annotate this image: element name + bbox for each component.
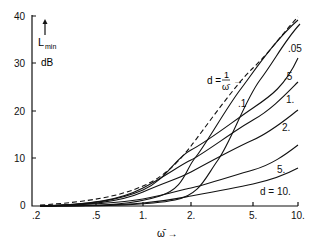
y-axis-label: L min dB bbox=[38, 19, 56, 68]
label-d-2: 2. bbox=[282, 122, 290, 133]
asym-arrow: → bbox=[233, 75, 243, 86]
asym-d: d = bbox=[207, 75, 221, 86]
label-d-1: 1. bbox=[286, 94, 294, 105]
y-label-main: L bbox=[38, 36, 44, 48]
label-d-10: d = 10. bbox=[260, 186, 291, 197]
label-d-0.1: .1 bbox=[238, 98, 247, 109]
y-tick-40: 40 bbox=[14, 11, 26, 22]
y-label-unit: dB bbox=[41, 57, 54, 68]
asym-den: ω̄ bbox=[222, 82, 231, 92]
label-d-0.5: .5 bbox=[284, 71, 293, 82]
x-tick-0.5: .5 bbox=[92, 210, 101, 221]
curves bbox=[40, 17, 300, 206]
asymptote-label: d = 1 ω̄ → bbox=[207, 70, 243, 92]
axis-lines bbox=[32, 15, 298, 206]
x-tick-0.2: .2 bbox=[32, 210, 41, 221]
x-tick-1: 1. bbox=[139, 210, 147, 221]
label-d-0.05: .05 bbox=[288, 43, 302, 54]
y-tick-0: 0 bbox=[20, 200, 26, 211]
asym-num: 1 bbox=[224, 70, 229, 80]
x-tick-2: 2. bbox=[187, 210, 195, 221]
x-axis-label: ω̄ → bbox=[157, 228, 178, 239]
axes bbox=[32, 15, 298, 206]
y-label-sub: min bbox=[45, 43, 56, 50]
y-tick-30: 30 bbox=[14, 58, 26, 69]
y-tick-20: 20 bbox=[14, 106, 26, 117]
label-d-5: 5. bbox=[277, 164, 285, 175]
arrow-head-icon bbox=[43, 19, 48, 24]
y-tick-10: 10 bbox=[14, 153, 26, 164]
curve-d-0.1 bbox=[40, 20, 298, 206]
curve-envelope bbox=[40, 17, 298, 205]
chart: 40 30 20 10 0 .2 .5 1. 2. 5. 10. L min d… bbox=[0, 0, 317, 241]
x-tick-10: 10. bbox=[291, 210, 305, 221]
x-tick-5: 5. bbox=[249, 210, 257, 221]
